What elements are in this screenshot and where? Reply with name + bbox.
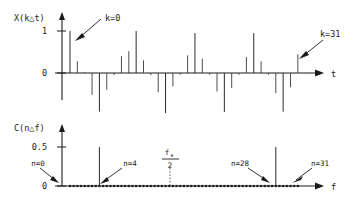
- bottom-sample-dot: [201, 185, 203, 187]
- annotation-n0: n=0: [31, 159, 59, 183]
- bottom-sample-dot: [131, 185, 133, 187]
- bottom-sample-dot: [84, 185, 86, 187]
- bottom-sample-dot: [249, 185, 251, 187]
- bottom-sample-dot: [253, 185, 255, 187]
- annotation-k31-label: k=31: [320, 29, 340, 39]
- bottom-chart: C(n△f) 0.5 0 f f s 2 n=0 n=4: [14, 123, 336, 192]
- bottom-y-axis-arrowhead: [59, 124, 65, 132]
- bottom-sample-dot: [260, 185, 262, 187]
- bottom-ytick-0-label: 0: [42, 181, 47, 191]
- annotation-n31: n=31: [292, 159, 329, 183]
- bottom-sample-dot: [282, 185, 284, 187]
- bottom-sample-dot: [264, 185, 266, 187]
- bottom-sample-dot: [161, 185, 163, 187]
- bottom-sample-dot: [150, 185, 152, 187]
- bottom-sample-dot: [172, 185, 174, 187]
- figure-canvas: X(k△t) 1 0 t k=0 k=31 C(n△f) 0.5: [0, 0, 355, 205]
- bottom-sample-dot: [297, 185, 299, 187]
- bottom-sample-dot: [124, 185, 126, 187]
- bottom-sample-dot: [113, 185, 115, 187]
- bottom-sample-dot: [135, 185, 137, 187]
- bottom-sample-dot: [183, 185, 185, 187]
- nyquist-subscript: s: [170, 152, 173, 158]
- bottom-sample-dot: [175, 185, 177, 187]
- top-x-axis-label: t: [331, 69, 336, 79]
- bottom-sample-dot: [293, 185, 295, 187]
- bottom-sample-dot: [139, 185, 141, 187]
- bottom-sample-dot: [102, 185, 104, 187]
- bottom-sample-dot: [187, 185, 189, 187]
- bottom-sample-dot: [205, 185, 207, 187]
- bottom-sample-dot: [69, 185, 71, 187]
- bottom-sample-dot: [120, 185, 122, 187]
- bottom-sample-dot: [234, 185, 236, 187]
- bottom-y-axis-label: C(n△f): [14, 123, 45, 133]
- top-ytick-0-label: 0: [42, 68, 47, 78]
- annotation-n28-label: n=28: [231, 159, 250, 168]
- bottom-sample-dot: [245, 185, 247, 187]
- bottom-sample-dot-group: [69, 185, 299, 187]
- bottom-ytick-half-label: 0.5: [32, 142, 47, 152]
- nyquist-numerator: f: [165, 148, 170, 157]
- annotation-k0: k=0: [75, 13, 120, 41]
- bottom-sample-dot: [179, 185, 181, 187]
- bottom-sample-dot: [157, 185, 159, 187]
- bottom-sample-dot: [212, 185, 214, 187]
- bottom-sample-dot: [223, 185, 225, 187]
- bottom-sample-dot: [194, 185, 196, 187]
- bottom-sample-dot: [238, 185, 240, 187]
- bottom-sample-dot: [231, 185, 233, 187]
- annotation-k0-label: k=0: [105, 13, 120, 23]
- bottom-sample-dot: [95, 185, 97, 187]
- bottom-sample-dot: [289, 185, 291, 187]
- annotation-n28: n=28: [231, 159, 270, 183]
- bottom-sample-dot: [168, 185, 170, 187]
- bottom-sample-dot: [271, 185, 273, 187]
- bottom-sample-dot: [227, 185, 229, 187]
- bottom-sample-dot: [190, 185, 192, 187]
- bottom-x-axis-label: f: [331, 182, 336, 192]
- bottom-sample-dot: [267, 185, 269, 187]
- bottom-sample-dot: [73, 185, 75, 187]
- bottom-sample-dot: [80, 185, 82, 187]
- bottom-sample-dot: [87, 185, 89, 187]
- signal-figure: X(k△t) 1 0 t k=0 k=31 C(n△f) 0.5: [0, 0, 355, 205]
- top-y-axis-label: X(k△t): [14, 13, 45, 23]
- top-chart: X(k△t) 1 0 t k=0 k=31: [14, 12, 340, 113]
- annotation-n0-label: n=0: [31, 159, 45, 168]
- bottom-sample-dot: [76, 185, 78, 187]
- bottom-sample-dot: [109, 185, 111, 187]
- bottom-sample-dot: [128, 185, 130, 187]
- bottom-sample-dot: [216, 185, 218, 187]
- bottom-sample-dot: [256, 185, 258, 187]
- top-stem-group: [70, 31, 298, 113]
- bottom-sample-dot: [164, 185, 166, 187]
- bottom-sample-dot: [146, 185, 148, 187]
- top-y-axis-arrowhead: [59, 12, 65, 20]
- top-x-axis-arrowhead: [315, 70, 324, 77]
- annotation-n31-label: n=31: [311, 159, 329, 168]
- bottom-sample-dot: [117, 185, 119, 187]
- bottom-sample-dot: [106, 185, 108, 187]
- bottom-sample-dot: [142, 185, 144, 187]
- bottom-sample-dot: [242, 185, 244, 187]
- top-ytick-1-label: 1: [42, 26, 47, 36]
- bottom-sample-dot: [209, 185, 211, 187]
- annotation-n4: n=4: [100, 159, 137, 184]
- bottom-sample-dot: [198, 185, 200, 187]
- bottom-sample-dot: [220, 185, 222, 187]
- nyquist-denominator: 2: [168, 161, 173, 170]
- annotation-n4-label: n=4: [123, 159, 137, 168]
- bottom-sample-dot: [278, 185, 280, 187]
- bottom-x-axis-arrowhead: [315, 183, 324, 190]
- bottom-sample-dot: [286, 185, 288, 187]
- bottom-sample-dot: [153, 185, 155, 187]
- bottom-sample-dot: [91, 185, 93, 187]
- annotation-k31: k=31: [299, 29, 340, 59]
- nyquist-marker: f s 2: [162, 148, 179, 185]
